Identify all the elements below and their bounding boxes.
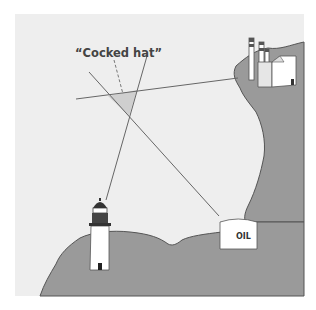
- oil-label: OIL: [236, 232, 251, 241]
- cocked-hat-diagram: “Cocked hat” OIL: [0, 0, 316, 310]
- oil-tank-icon: OIL: [220, 219, 257, 249]
- cocked-hat-label: “Cocked hat”: [75, 46, 162, 60]
